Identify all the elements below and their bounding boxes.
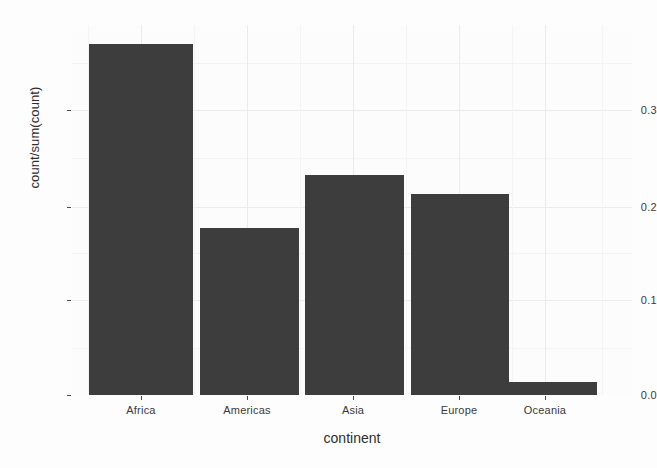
y-axis-title: count/sum(count) [27,48,42,228]
y-tick-mark-0.1 [67,300,71,301]
x-tick-mark-europe [459,396,460,400]
bar-europe[interactable] [411,194,509,395]
x-tick-mark-americas [247,396,248,400]
bar-africa[interactable] [89,44,193,395]
x-tick-mark-asia [353,396,354,400]
bar-americas[interactable] [200,228,299,395]
y-tick-mark-0.3 [67,110,71,111]
y-tick-mark-0.0 [67,395,71,396]
x-tick-mark-africa [141,396,142,400]
x-tick-label-oceania: Oceania [495,404,595,416]
x-tick-label-americas: Americas [197,404,297,416]
x-tick-mark-oceania [545,396,546,400]
x-tick-label-asia: Asia [303,404,403,416]
gridline-minor-x-4 [406,25,407,395]
gridline-minor-x-3 [300,25,301,395]
gridline-major-x-oceania [545,25,546,395]
bar-oceania[interactable] [494,382,597,395]
x-tick-label-europe: Europe [409,404,509,416]
gridline-minor-x-5 [512,25,513,395]
x-tick-label-africa: Africa [91,404,191,416]
x-axis-title: continent [72,430,632,446]
plot-panel [72,25,632,395]
gridline-minor-x-2 [194,25,195,395]
y-tick-mark-0.2 [67,207,71,208]
gridline-minor-x-6 [602,25,603,395]
chart-figure: count/sum(count) 0.3 0.2 0.1 0.0 [0,0,657,468]
bar-asia[interactable] [305,175,404,395]
